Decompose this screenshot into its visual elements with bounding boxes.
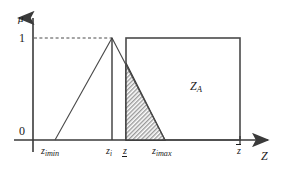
x-tick-label-zimin: zimin xyxy=(41,146,59,158)
x-tick-label-zimax: zimax xyxy=(152,146,172,158)
x-tick-zimin-subsub: min xyxy=(47,149,59,158)
region-label-za: ZA xyxy=(190,80,202,94)
x-tick-zlower-base: z xyxy=(123,146,127,156)
x-tick-zi-sub: i xyxy=(110,150,112,158)
y-tick-label-zero: 0 xyxy=(19,125,25,137)
figure-container: μ Z 1 0 zimin zi z zimax z ZA xyxy=(0,0,287,172)
region-label-base: Z xyxy=(190,79,197,93)
y-axis-label: μ xyxy=(18,13,24,24)
x-tick-label-zupper: z xyxy=(237,146,241,156)
x-tick-zimax-subsub: max xyxy=(158,149,172,158)
x-tick-label-zlower: z xyxy=(123,146,127,156)
x-tick-zupper-base: z xyxy=(237,146,241,156)
x-tick-label-zi: zi xyxy=(106,146,112,158)
region-label-sub: A xyxy=(197,84,202,94)
x-axis-label: Z xyxy=(261,150,268,162)
y-tick-label-one: 1 xyxy=(19,32,25,44)
